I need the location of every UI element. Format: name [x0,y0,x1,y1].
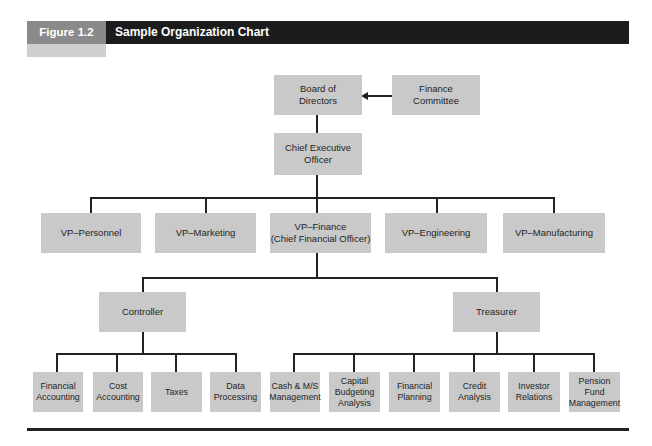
figure-title: Sample Organization Chart [115,21,269,44]
connector-finance-committee-to-board [366,95,392,97]
treasurer-box: Treasurer [453,292,540,332]
data-processing-box: Data Processing [210,372,261,412]
finance-committee-box: Finance Committee [392,75,480,115]
connector-vp-bus [90,197,555,199]
connector-leaf [593,353,595,372]
connector-treasurer [496,277,498,292]
connector-treasurer-down [496,332,498,353]
financial-planning-box: Financial Planning [389,372,440,412]
connector-board-to-ceo [316,115,318,133]
connector-ceo-down [316,175,318,197]
connector-controller-down [142,332,144,353]
connector-leaf [56,353,58,372]
connector-vp-personnel [90,197,92,213]
connector-leaf [473,353,475,372]
connector-controller-bus [56,353,236,355]
vp-manufacturing-box: VP–Manufacturing [503,213,605,253]
connector-controller [142,277,144,292]
vp-finance-box: VP–Finance (Chief Financial Officer) [270,213,371,253]
connector-treasurer-bus [293,353,594,355]
figure-label-tab [27,44,106,57]
investor-relations-box: Investor Relations [508,372,560,412]
connector-leaf [175,353,177,372]
cost-accounting-box: Cost Accounting [93,372,143,412]
controller-box: Controller [99,292,186,332]
taxes-box: Taxes [151,372,202,412]
figure-label: Figure 1.2 [27,21,106,44]
vp-marketing-box: VP–Marketing [155,213,256,253]
cash-ms-management-box: Cash & M/S Management [270,372,320,412]
connector-vp-marketing [205,197,207,213]
connector-leaf [413,353,415,372]
connector-leaf [353,353,355,372]
connector-vp-manufacturing [553,197,555,213]
connector-vp-finance [316,197,318,213]
connector-leaf [533,353,535,372]
bottom-rule-divider [27,428,629,431]
credit-analysis-box: Credit Analysis [449,372,500,412]
arrowhead-icon [361,92,368,100]
connector-vp-engineering [436,197,438,213]
financial-accounting-box: Financial Accounting [33,372,83,412]
connector-cfo-bus [142,277,497,279]
board-of-directors-box: Board of Directors [274,75,362,115]
pension-fund-management-box: Pension Fund Management [569,372,620,412]
connector-leaf [235,353,237,372]
capital-budgeting-analysis-box: Capital Budgeting Analysis [329,372,380,412]
vp-engineering-box: VP–Engineering [385,213,487,253]
ceo-box: Chief Executive Officer [274,133,362,175]
vp-personnel-box: VP–Personnel [41,213,141,253]
connector-leaf [293,353,295,372]
connector-cfo-down [316,253,318,277]
connector-leaf [116,353,118,372]
